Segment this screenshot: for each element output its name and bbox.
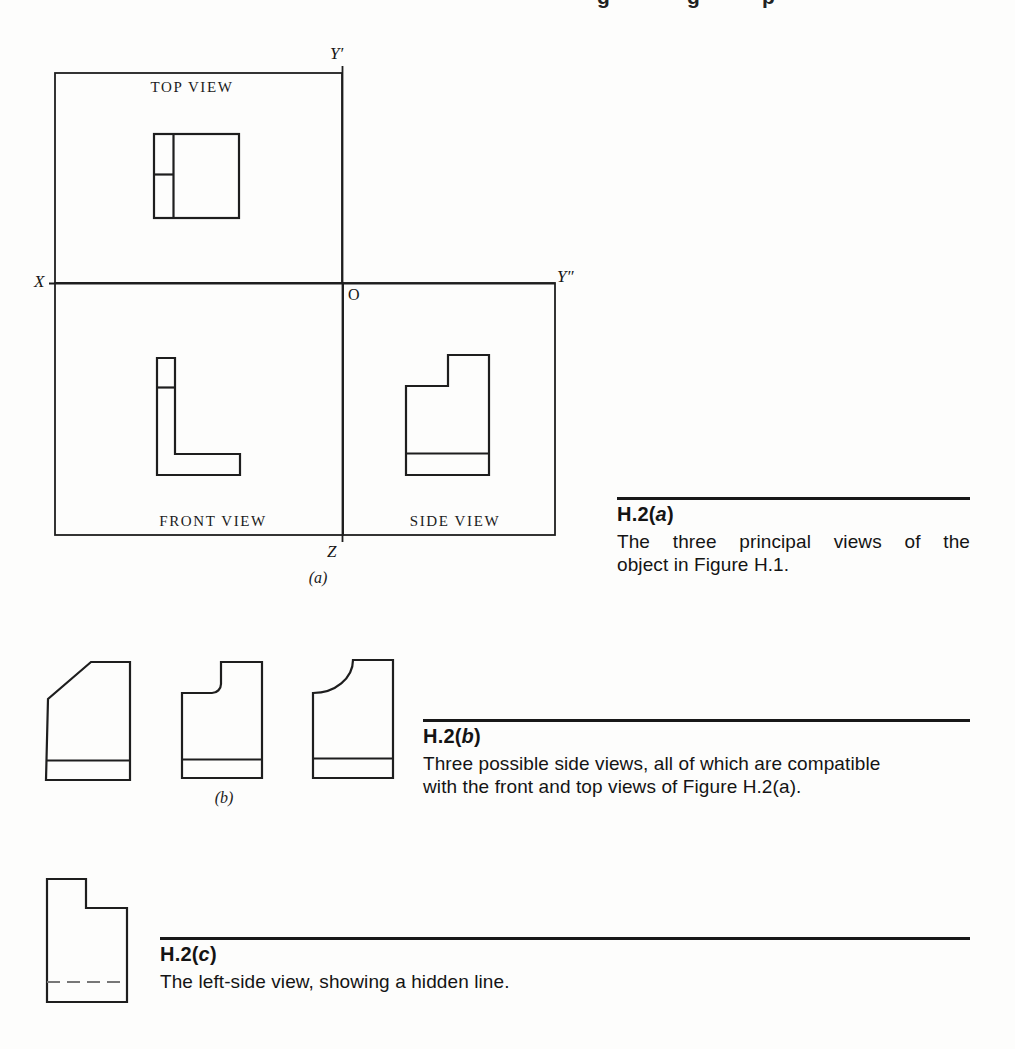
side-view-quadrant	[343, 283, 555, 535]
caption-h2b-id-prefix: H.2(	[423, 725, 462, 747]
front-view-quadrant	[55, 283, 343, 535]
front-view-shape	[157, 358, 240, 475]
caption-h2a-id-suffix: )	[667, 503, 674, 525]
caption-h2b-id: H.2(b)	[423, 724, 970, 748]
caption-h2a-id: H.2(a)	[617, 502, 970, 526]
caption-h2a: H.2(a) The three principal views of the …	[617, 497, 970, 577]
caption-h2a-line2: object in Figure H.1.	[617, 553, 970, 577]
caption-h2c-id-prefix: H.2(	[160, 943, 199, 965]
side-view-shape	[406, 355, 489, 475]
caption-h2c-id-suffix: )	[210, 943, 217, 965]
left-side-view-shape	[47, 879, 127, 1002]
left-side-view-outline	[47, 879, 127, 1002]
top-view-quadrant	[55, 73, 342, 283]
caption-h2a-rule	[617, 497, 970, 500]
axis-label-origin: O	[348, 286, 360, 304]
alt-side-view-cove	[313, 660, 393, 778]
top-view-outline	[154, 134, 239, 218]
panel-label-a: (a)	[293, 569, 343, 587]
caption-h2c-rule	[160, 937, 970, 940]
alt-view-1-outline	[46, 662, 130, 780]
caption-h2b-id-suffix: )	[474, 725, 481, 747]
caption-h2c-text: The left-side view, showing a hidden lin…	[160, 970, 970, 994]
caption-h2c-line1: The left-side view, showing a hidden lin…	[160, 970, 970, 994]
axis-label-y-double-prime: Y″	[557, 267, 574, 287]
side-view-label: SIDE VIEW	[375, 513, 535, 530]
caption-h2a-line1: The three principal views of the	[617, 530, 970, 554]
caption-h2b-line2: with the front and top views of Figure H…	[423, 775, 970, 799]
caption-h2b-line1: Three possible side views, all of which …	[423, 752, 970, 776]
caption-h2a-id-prefix: H.2(	[617, 503, 656, 525]
panel-label-b: (b)	[199, 789, 249, 807]
axis-label-x: X	[34, 272, 44, 292]
alt-side-view-fillet-step	[182, 662, 262, 778]
caption-h2c-id-letter: c	[199, 943, 210, 965]
top-view-shape	[154, 134, 239, 218]
alt-view-3-outline	[313, 660, 393, 778]
top-view-label: TOP VIEW	[122, 79, 262, 96]
caption-h2a-id-letter: a	[656, 503, 667, 525]
alt-side-view-chamfer	[46, 662, 130, 780]
side-view-outline	[406, 355, 489, 475]
caption-h2c: H.2(c) The left-side view, showing a hid…	[160, 937, 970, 993]
front-view-outline	[157, 358, 240, 475]
caption-h2b: H.2(b) Three possible side views, all of…	[423, 719, 970, 799]
axis-label-y-prime: Y′	[330, 44, 343, 64]
caption-h2a-text: The three principal views of the object …	[617, 530, 970, 577]
axis-label-z: Z	[327, 542, 336, 562]
caption-h2b-rule	[423, 719, 970, 722]
caption-h2c-id: H.2(c)	[160, 942, 970, 966]
projection-quadrants	[49, 66, 555, 542]
caption-h2b-text: Three possible side views, all of which …	[423, 752, 970, 799]
caption-h2b-id-letter: b	[462, 725, 474, 747]
front-view-label: FRONT VIEW	[133, 513, 293, 530]
book-page: g g p	[0, 0, 1015, 1049]
